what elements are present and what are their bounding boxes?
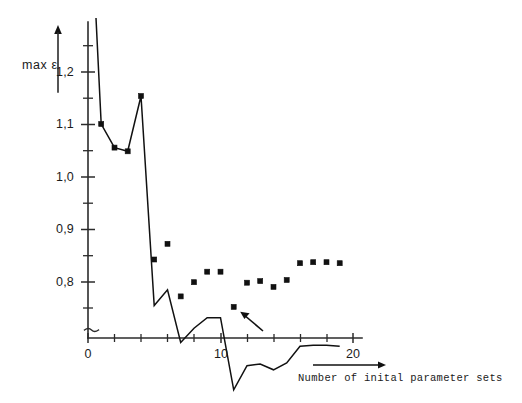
series-polyline [96,18,340,390]
marker-x2 [112,145,117,150]
marker-x8 [192,280,197,285]
marker-x17 [311,260,316,265]
marker-x10 [218,269,223,274]
x-tick-label-10: 10 [206,348,236,361]
x-title-arrowhead [378,361,386,368]
data-series-max-epsilon [96,18,340,390]
marker-x11 [231,304,236,309]
marker-x18 [324,260,329,265]
data-markers [99,94,343,310]
x-tick-label-20: 20 [338,348,368,361]
marker-x14 [271,284,276,289]
y-tick-label-0-8: 0,8 [40,276,74,289]
x-axis-title: Number of inital parameter sets [298,373,503,384]
y-axis-break-mark [85,329,99,332]
y-tick-label-1-2: 1,2 [40,66,74,79]
marker-x13 [258,279,263,284]
y-tick-label-0-9: 0,9 [40,223,74,236]
minimum-arrow-annotation [240,312,263,331]
y-tick-label-1-1: 1,1 [40,118,74,131]
marker-x9 [205,269,210,274]
x-title-arrow-group [313,361,386,368]
y-tick-label-1-0: 1,0 [40,171,74,184]
marker-x15 [284,278,289,283]
marker-x5 [152,257,157,262]
marker-x1 [99,122,104,127]
marker-x12 [245,280,250,285]
chart-canvas [0,0,522,403]
marker-x19 [337,261,342,266]
marker-x3 [125,149,130,154]
x-tick-label-0: 0 [73,348,103,361]
marker-x16 [298,261,303,266]
marker-x7 [178,294,183,299]
chart-figure: max ε 1,2 1,1 1,0 0,9 0,8 0 10 20 Number… [0,0,522,403]
marker-x6 [165,241,170,246]
marker-x4 [139,94,144,99]
annotation-arrow-shaft [244,315,264,332]
